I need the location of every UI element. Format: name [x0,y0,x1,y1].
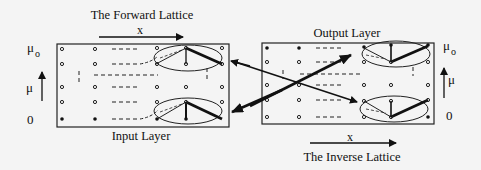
forward-mu-zero: 0 [27,112,34,127]
inverse-mu-top: μ [443,38,450,53]
arrow-to-forward-top [231,61,250,66]
forward-mu-top-sub: o [35,48,40,59]
inverse-mu-mid: μ [448,72,455,87]
inverse-filled-nodes [265,46,301,50]
inverse-dashes [283,48,413,117]
forward-lattice-title: The Forward Lattice [91,8,194,22]
forward-dashes [79,49,207,119]
forward-filled-nodes [60,117,97,121]
forward-mu-top: μ [27,40,34,55]
output-layer-label: Output Layer [314,26,382,40]
lattice-diagram: The Forward Lattice x μ o μ 0 [0,0,481,170]
inverse-mu-top-sub: o [451,46,456,57]
inverse-x-label: x [347,130,353,144]
inverse-lattice-title: The Inverse Lattice [303,150,401,164]
input-layer-label: Input Layer [112,129,171,143]
inverse-top-stencil [362,41,430,67]
inverse-lattice: Output Layer [262,26,456,164]
forward-top-stencil [154,45,224,71]
connecting-arrows [231,55,357,112]
forward-lattice: The Forward Lattice x μ o μ 0 [26,8,229,143]
inverse-bottom-stencil [360,96,430,122]
forward-mu-mid: μ [26,80,33,95]
forward-nodes [60,47,223,103]
forward-bottom-stencil [154,98,224,124]
arrow-to-forward-bottom [232,90,282,112]
forward-x-label: x [137,23,143,37]
arrow-forward-to-inverse-bottom [232,61,357,102]
inverse-mu-zero: 0 [446,108,453,123]
